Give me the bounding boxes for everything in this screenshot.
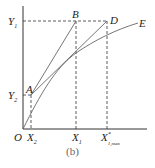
origin-label: O bbox=[14, 131, 22, 143]
x1-label: X1 bbox=[71, 131, 82, 145]
diagram-canvas: Y1 Y2 O X2 X1 X*1,max A B D E (b) bbox=[0, 0, 155, 168]
y1-label: Y1 bbox=[8, 15, 17, 29]
point-a-label: A bbox=[25, 83, 33, 95]
point-b-label: B bbox=[72, 8, 79, 20]
y2-label: Y2 bbox=[8, 89, 17, 103]
x1max-label: X*1,max bbox=[100, 131, 121, 147]
x2-label: X2 bbox=[26, 131, 37, 145]
point-e-label: E bbox=[138, 17, 146, 29]
curve-o-e bbox=[23, 23, 138, 129]
point-d-label: D bbox=[109, 14, 118, 26]
figure-caption: (b) bbox=[66, 145, 79, 158]
